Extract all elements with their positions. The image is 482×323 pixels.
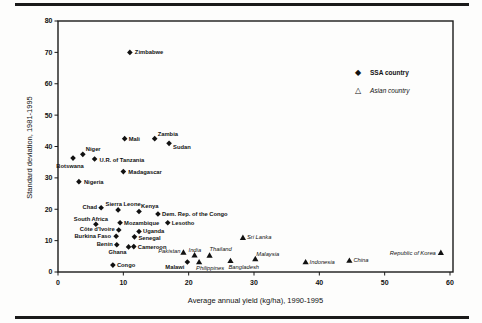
data-point-diamond-marker	[76, 179, 82, 185]
data-point-label: Chad	[83, 204, 98, 210]
data-point-diamond-marker	[152, 136, 158, 142]
data-point-label: Sri Lanka	[247, 234, 272, 240]
data-point-label: Nigeria	[84, 179, 104, 185]
data-point-triangle-marker	[227, 258, 233, 263]
data-point-diamond-marker	[92, 156, 98, 162]
data-point-label: Burkina Faso	[74, 233, 111, 239]
x-tick-label: 10	[119, 279, 127, 286]
data-point-triangle-marker	[196, 259, 202, 264]
data-point-diamond-marker	[185, 259, 191, 265]
data-point-label: Ghana	[109, 249, 128, 255]
legend-label-asian: Asian country	[370, 87, 409, 94]
data-point-label: Mali	[129, 136, 141, 142]
data-point-diamond-marker	[121, 169, 127, 175]
y-tick-label: 60	[45, 80, 53, 87]
x-tick-label: 60	[446, 279, 454, 286]
data-point-label: Congo	[117, 262, 136, 268]
data-point-diamond-marker	[136, 229, 142, 235]
data-point-label: China	[353, 257, 369, 263]
data-point-diamond-marker	[127, 50, 133, 56]
data-point-diamond-marker	[70, 155, 76, 161]
legend-item-asian: △ Asian country	[352, 84, 409, 97]
y-tick-label: 50	[45, 112, 53, 119]
x-axis-title: Average annual yield (kg/ha), 1990-1995	[58, 296, 453, 305]
filled-diamond-icon: ◆	[352, 68, 363, 77]
data-point-label: Niger	[86, 146, 102, 152]
data-point-diamond-marker	[155, 211, 161, 217]
legend: ◆ SSA country △ Asian country	[352, 66, 409, 102]
data-point-label: Thailand	[210, 246, 233, 252]
data-point-triangle-marker	[346, 257, 352, 262]
data-point-label: Lesotho	[172, 220, 195, 226]
data-point-label: Malaysia	[256, 251, 280, 257]
data-point-diamond-marker	[114, 242, 120, 248]
data-point-diamond-marker	[113, 233, 119, 239]
data-point-triangle-marker	[438, 250, 444, 255]
data-point-label: Senegal	[138, 235, 161, 241]
y-tick-label: 20	[45, 206, 53, 213]
data-point-label: Botswana	[56, 163, 84, 169]
figure: 010203040506001020304050607080ZimbabweMa…	[0, 0, 482, 323]
y-tick-label: 0	[49, 268, 53, 275]
data-point-label: Indonesia	[310, 259, 336, 265]
x-tick-label: 40	[315, 279, 323, 286]
data-point-diamond-marker	[136, 209, 142, 215]
data-point-label: Zambia	[158, 131, 179, 137]
data-point-label: Uganda	[143, 228, 165, 234]
data-point-label: Côte d'Ivoire	[80, 226, 116, 232]
y-tick-label: 30	[45, 174, 53, 181]
data-point-diamond-marker	[165, 220, 171, 226]
data-point-diamond-marker	[117, 220, 123, 226]
x-tick-label: 30	[250, 279, 258, 286]
data-point-label: Philippines	[196, 265, 224, 271]
data-point-diamond-marker	[98, 205, 104, 211]
data-point-triangle-marker	[303, 259, 309, 264]
data-point-diamond-marker	[122, 136, 128, 142]
legend-label-ssa: SSA country	[370, 69, 409, 76]
data-point-label: U.R. of Tanzania	[100, 157, 145, 163]
data-point-triangle-marker	[206, 252, 212, 257]
data-point-label: Benin	[97, 241, 114, 247]
data-point-label: Sudan	[173, 144, 191, 150]
data-point-triangle-marker	[180, 249, 186, 254]
data-point-label: Malawi	[165, 264, 184, 270]
data-point-label: Pakistan	[158, 248, 180, 254]
data-point-label: Zimbabwe	[135, 49, 164, 55]
x-tick-label: 50	[381, 279, 389, 286]
data-point-label: Kenya	[141, 203, 159, 209]
data-point-label: Sierra Leone	[106, 201, 142, 207]
data-point-label: Republic of Korea	[390, 250, 437, 256]
open-triangle-icon: △	[352, 86, 363, 95]
data-point-diamond-marker	[131, 244, 137, 250]
data-point-label: Bangladesh	[228, 264, 259, 270]
x-tick-label: 0	[56, 279, 60, 286]
data-point-diamond-marker	[126, 244, 132, 250]
data-point-label: Dem. Rep. of the Congo	[162, 211, 228, 217]
y-tick-label: 70	[45, 49, 53, 56]
scatter-plot: 010203040506001020304050607080ZimbabweMa…	[0, 0, 482, 323]
y-tick-label: 80	[45, 17, 53, 24]
data-point-triangle-marker	[240, 234, 246, 239]
data-point-diamond-marker	[166, 141, 172, 147]
data-point-label: South Africa	[74, 216, 109, 222]
y-axis-title: Standard deviation, 1981-1995	[25, 48, 34, 248]
data-point-label: Mozambique	[124, 220, 160, 226]
data-point-diamond-marker	[132, 234, 138, 240]
data-point-diamond-marker	[80, 152, 86, 158]
data-point-label: Madagascar	[128, 169, 162, 175]
x-tick-label: 20	[185, 279, 193, 286]
y-tick-label: 40	[45, 143, 53, 150]
data-point-diamond-marker	[116, 227, 122, 233]
data-point-diamond-marker	[115, 207, 121, 213]
y-tick-label: 10	[45, 237, 53, 244]
data-point-diamond-marker	[110, 262, 116, 268]
legend-item-ssa: ◆ SSA country	[352, 66, 409, 79]
data-point-label: India	[189, 247, 202, 253]
